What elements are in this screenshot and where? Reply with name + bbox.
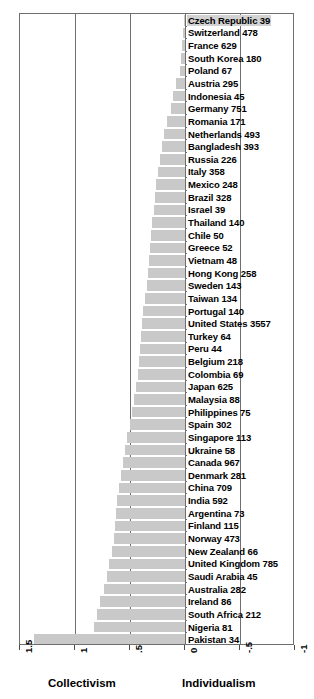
- bar-row: Argentina 73: [20, 507, 293, 520]
- bar-label: Australia 282: [187, 584, 247, 595]
- bar-label: Spain 302: [187, 419, 232, 430]
- bar: [158, 167, 186, 178]
- bar: [154, 205, 185, 216]
- bar: [136, 382, 186, 393]
- bar: [149, 255, 185, 266]
- bar-label: South Korea 180: [187, 53, 262, 64]
- bar-row: India 592: [20, 494, 293, 507]
- bar-row: Greece 52: [20, 242, 293, 255]
- bar-row: Austria 295: [20, 77, 293, 90]
- bar-label: United Kingdom 785: [187, 558, 279, 569]
- bar-row: Italy 358: [20, 166, 293, 179]
- bar-label: Hong Kong 258: [187, 268, 257, 279]
- bar-label: Israel 39: [187, 204, 226, 215]
- bar-label: Denmark 281: [187, 470, 247, 481]
- bar-row: Finland 115: [20, 520, 293, 533]
- bar: [142, 318, 185, 329]
- bar: [139, 356, 185, 367]
- bar-row: Romania 171: [20, 115, 293, 128]
- bar: [34, 634, 185, 645]
- x-axis-tick-label: .5: [133, 645, 144, 653]
- bar: [94, 622, 185, 633]
- x-axis-tick-label: -.5: [243, 642, 254, 653]
- bar: [182, 40, 185, 51]
- bar-label: Greece 52: [187, 242, 234, 253]
- bar: [150, 243, 185, 254]
- bar-row: Ireland 86: [20, 595, 293, 608]
- bar-row: Russia 226: [20, 153, 293, 166]
- bar: [123, 457, 185, 468]
- bar: [143, 306, 185, 317]
- bar-row: Germany 751: [20, 102, 293, 115]
- bar-label: Thailand 140: [187, 217, 245, 228]
- bar: [183, 28, 185, 39]
- x-axis-tick: [74, 645, 75, 650]
- bar-label: Austria 295: [187, 78, 239, 89]
- bar-label: Ireland 86: [187, 596, 232, 607]
- bar-row: Poland 67: [20, 65, 293, 78]
- bar-row: Canada 967: [20, 456, 293, 469]
- bar-label: Mexico 248: [187, 179, 239, 190]
- bar-row: Israel 39: [20, 204, 293, 217]
- bar-label: New Zealand 66: [187, 546, 259, 557]
- bar-row: Ukraine 58: [20, 444, 293, 457]
- bar-label: Vietnam 48: [187, 255, 238, 266]
- x-axis-tick: [294, 645, 295, 650]
- bar-row: United States 3557: [20, 317, 293, 330]
- bar-label: India 592: [187, 495, 229, 506]
- bar: [117, 495, 185, 506]
- bar: [116, 508, 185, 519]
- bar-row: Hong Kong 258: [20, 267, 293, 280]
- bar-row: Brazil 328: [20, 191, 293, 204]
- bar-row: Malaysia 88: [20, 393, 293, 406]
- x-axis-tick-label: 1: [78, 648, 89, 653]
- bar: [152, 217, 185, 228]
- bar-row: Czech Republic 39: [20, 14, 293, 27]
- bar-label: France 629: [187, 40, 238, 51]
- bar-row: Chile 50: [20, 229, 293, 242]
- bar-row: Colombia 69: [20, 368, 293, 381]
- x-axis-tick: [239, 645, 240, 650]
- bar-row: United Kingdom 785: [20, 558, 293, 571]
- bar-row: Vietnam 48: [20, 254, 293, 267]
- bar-row: Saudi Arabia 45: [20, 570, 293, 583]
- bar-row: Spain 302: [20, 418, 293, 431]
- bar-label: Singapore 113: [187, 432, 252, 443]
- bar-label: Switzerland 478: [187, 27, 259, 38]
- bar: [160, 154, 185, 165]
- bar-label: Portugal 140: [187, 306, 245, 317]
- x-axis: 1.51.50-.5-1: [0, 645, 314, 655]
- bar-label: Sweden 143: [187, 280, 242, 291]
- x-axis-tick-label: 1.5: [23, 640, 34, 653]
- bar-label: Norway 473: [187, 533, 241, 544]
- bar-row: Taiwan 134: [20, 292, 293, 305]
- bar: [145, 293, 185, 304]
- bar-label: Philippines 75: [187, 407, 251, 418]
- bar: [112, 546, 185, 557]
- bar-row: France 629: [20, 39, 293, 52]
- bar-label: Italy 358: [187, 166, 226, 177]
- bar-label: Chile 50: [187, 230, 225, 241]
- bar-label: Brazil 328: [187, 192, 232, 203]
- bar-row: Indonesia 45: [20, 90, 293, 103]
- bar-row: Switzerland 478: [20, 27, 293, 40]
- bar-label: Romania 171: [187, 116, 247, 127]
- bar-row: South Africa 212: [20, 608, 293, 621]
- bar-row: Australia 282: [20, 583, 293, 596]
- bar-row: Nigeria 81: [20, 621, 293, 634]
- bar: [125, 445, 186, 456]
- bar-row: New Zealand 66: [20, 545, 293, 558]
- x-axis-tick-label: 0: [188, 648, 199, 653]
- bar-row: Thailand 140: [20, 216, 293, 229]
- bar: [171, 103, 185, 114]
- bar-label: Nigeria 81: [187, 622, 233, 633]
- bar-label: Netherlands 493: [187, 129, 261, 140]
- bar: [184, 15, 185, 26]
- bar-label: Colombia 69: [187, 369, 244, 380]
- x-axis-tick-label: -1: [298, 645, 309, 653]
- bar: [151, 230, 185, 241]
- bar-row: Singapore 113: [20, 431, 293, 444]
- bar: [114, 533, 186, 544]
- bar-label: China 709: [187, 482, 233, 493]
- bar-row: South Korea 180: [20, 52, 293, 65]
